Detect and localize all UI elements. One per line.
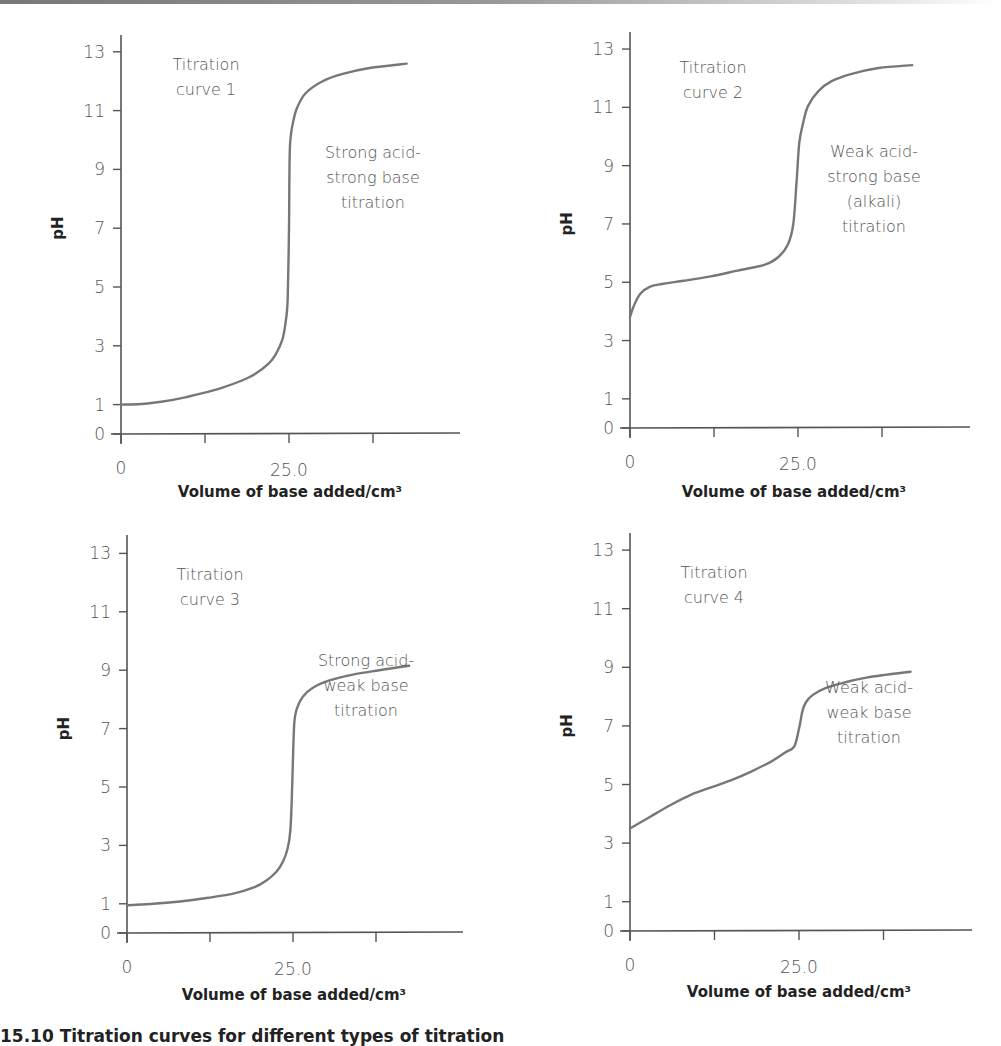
titration-type-label: Strong acid-weak basetitration	[318, 651, 414, 720]
y-tick-label: 0	[100, 923, 111, 943]
y-tick-label: 1	[100, 894, 111, 914]
y-tick-label: 11	[83, 101, 105, 121]
y-tick-label: 7	[603, 716, 614, 736]
chart-2: 0135791113025.0Titrationcurve 2Weak acid…	[558, 32, 970, 501]
chart-3: 0135791113025.0Titrationcurve 3Strong ac…	[55, 535, 463, 1004]
x-axis	[620, 427, 970, 428]
titration-type-label: Weak acid-weak basetitration	[825, 678, 913, 747]
y-tick-label: 1	[94, 395, 105, 415]
y-tick-label: 5	[603, 775, 614, 795]
y-tick-label: 7	[94, 218, 105, 238]
y-tick-label: 5	[603, 272, 614, 292]
y-tick-label: 11	[89, 602, 111, 622]
titration-type-label: Weak acid-strong base(alkali)titration	[827, 142, 921, 236]
y-tick-label: 9	[100, 660, 111, 680]
y-tick-label: 13	[592, 39, 614, 59]
titration-type-label: Strong acid-strong basetitration	[325, 143, 421, 212]
y-axis-title: pH	[558, 212, 576, 235]
y-tick-label: 11	[592, 97, 614, 117]
chart-title: Titrationcurve 3	[176, 565, 243, 609]
chart-title: Titrationcurve 2	[679, 58, 746, 102]
x-axis	[620, 930, 972, 931]
y-tick-label: 1	[603, 389, 614, 409]
x-axis	[111, 433, 460, 434]
x-tick-label: 0	[625, 452, 636, 472]
x-axis-title: Volume of base added/cm³	[682, 483, 906, 501]
y-tick-label: 13	[89, 543, 111, 563]
titration-curve	[121, 64, 407, 405]
y-axis-title: pH	[49, 217, 67, 240]
y-tick-label: 7	[100, 719, 111, 739]
y-tick-label: 7	[603, 214, 614, 234]
y-tick-label: 13	[592, 540, 614, 560]
y-tick-label: 3	[603, 331, 614, 351]
chart-4: 0135791113025.0Titrationcurve 4Weak acid…	[558, 533, 972, 1001]
x-tick-label: 0	[122, 957, 133, 977]
y-tick-label: 0	[603, 921, 614, 941]
x-axis-title: Volume of base added/cm³	[687, 983, 911, 1001]
x-axis-title: Volume of base added/cm³	[182, 986, 406, 1004]
x-tick-label: 25.0	[270, 460, 308, 480]
y-tick-label: 3	[603, 833, 614, 853]
y-tick-label: 0	[94, 424, 105, 444]
figure-caption: 15.10 Titration curves for different typ…	[0, 1026, 504, 1046]
y-axis-title: pH	[558, 714, 576, 737]
y-tick-label: 3	[94, 336, 105, 356]
x-tick-label: 25.0	[780, 957, 818, 977]
x-tick-label: 0	[116, 458, 127, 478]
x-axis	[117, 932, 463, 933]
chart-title: Titrationcurve 4	[680, 563, 747, 607]
chart-1: 0135791113025.0Titrationcurve 1Strong ac…	[49, 35, 460, 501]
y-tick-label: 5	[100, 777, 111, 797]
y-tick-label: 9	[603, 657, 614, 677]
y-tick-label: 13	[83, 42, 105, 62]
y-tick-label: 0	[603, 418, 614, 438]
y-tick-label: 5	[94, 277, 105, 297]
y-tick-label: 3	[100, 835, 111, 855]
y-axis-title: pH	[55, 717, 73, 740]
y-tick-label: 11	[592, 599, 614, 619]
x-tick-label: 0	[625, 955, 636, 975]
y-tick-label: 1	[603, 892, 614, 912]
y-tick-label: 9	[94, 159, 105, 179]
y-tick-label: 9	[603, 156, 614, 176]
x-tick-label: 25.0	[779, 454, 817, 474]
chart-title: Titrationcurve 1	[172, 55, 239, 99]
x-tick-label: 25.0	[274, 959, 312, 979]
x-axis-title: Volume of base added/cm³	[178, 483, 402, 501]
